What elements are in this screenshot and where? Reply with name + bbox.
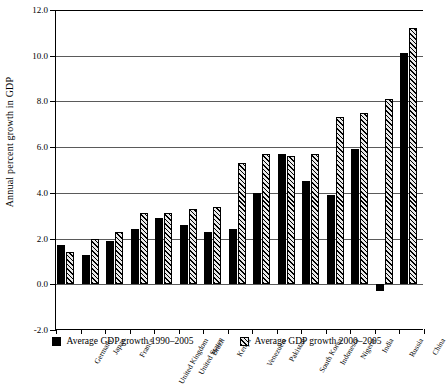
bar-series1 xyxy=(82,255,90,285)
x-axis-tick xyxy=(81,329,82,334)
bar-group xyxy=(56,10,81,329)
bar-series2 xyxy=(91,239,99,285)
y-axis-tick-label: 6.0 xyxy=(37,143,48,152)
x-axis-tick xyxy=(277,329,278,334)
x-axis-tick xyxy=(228,329,229,334)
y-axis-tick-label: 4.0 xyxy=(37,188,48,197)
y-axis-tick-label: 8.0 xyxy=(37,97,48,106)
legend-label-2000-2005: Average GDP growth 2000–2005 xyxy=(255,336,382,346)
bar-series1 xyxy=(106,241,114,284)
bar-group xyxy=(130,10,155,329)
x-axis-tick xyxy=(399,329,400,334)
bar-group xyxy=(301,10,326,329)
bar-group xyxy=(350,10,375,329)
bar-series2 xyxy=(287,156,295,284)
plot-area: 12.010.08.06.04.02.00.0-2.0 GermanyJapan… xyxy=(55,10,423,330)
chart-legend: Average GDP growth 1990–2005 Average GDP… xyxy=(0,336,433,346)
bar-series2 xyxy=(115,232,123,285)
bar-series2 xyxy=(360,113,368,284)
x-axis-tick xyxy=(301,329,302,334)
bar-group xyxy=(277,10,302,329)
x-axis-category-label: China xyxy=(431,337,447,357)
legend-item-2000-2005: Average GDP growth 2000–2005 xyxy=(240,336,382,346)
legend-item-1990-2005: Average GDP growth 1990–2005 xyxy=(52,336,194,346)
bar-series1 xyxy=(302,181,310,284)
y-axis-tick-label: -2.0 xyxy=(34,326,48,335)
bar-series2 xyxy=(336,117,344,284)
bar-series1 xyxy=(278,154,286,284)
bar-series2 xyxy=(238,163,246,284)
x-axis-tick xyxy=(130,329,131,334)
bar-group xyxy=(399,10,424,329)
bar-series2 xyxy=(140,213,148,284)
x-axis-tick xyxy=(154,329,155,334)
bar-group xyxy=(81,10,106,329)
x-axis-tick xyxy=(252,329,253,334)
bar-group xyxy=(154,10,179,329)
y-axis-tick-label: 0.0 xyxy=(37,280,48,289)
bar-series2 xyxy=(189,209,197,284)
bar-series1 xyxy=(204,232,212,285)
bar-group xyxy=(179,10,204,329)
bar-series1 xyxy=(253,193,261,284)
legend-swatch-solid-icon xyxy=(52,337,61,346)
bar-series-container xyxy=(56,10,423,329)
y-axis-tick-label: 10.0 xyxy=(32,51,48,60)
bar-group xyxy=(203,10,228,329)
x-axis-tick xyxy=(105,329,106,334)
legend-swatch-hatched-icon xyxy=(240,337,249,346)
bar-series1 xyxy=(376,284,384,291)
bar-series2 xyxy=(213,207,221,285)
x-axis-tick xyxy=(179,329,180,334)
bar-series1 xyxy=(400,53,408,284)
legend-label-1990-2005: Average GDP growth 1990–2005 xyxy=(67,336,194,346)
bar-series1 xyxy=(327,195,335,284)
y-axis-tick-label: 2.0 xyxy=(37,234,48,243)
bar-series1 xyxy=(57,245,65,284)
x-axis-tick xyxy=(375,329,376,334)
bar-series2 xyxy=(409,28,417,284)
bar-series1 xyxy=(180,225,188,284)
y-axis-title: Annual percent growth in GDP xyxy=(4,27,20,257)
bar-series2 xyxy=(164,213,172,284)
bar-group xyxy=(105,10,130,329)
x-axis-tick xyxy=(326,329,327,334)
bar-group xyxy=(375,10,400,329)
bar-series2 xyxy=(311,154,319,284)
bar-series1 xyxy=(229,229,237,284)
x-axis-tick xyxy=(350,329,351,334)
bar-series2 xyxy=(262,154,270,284)
bar-group xyxy=(252,10,277,329)
x-axis-tick xyxy=(56,329,57,334)
bar-series2 xyxy=(385,99,393,284)
bar-group xyxy=(326,10,351,329)
bar-series2 xyxy=(66,252,74,284)
bar-series1 xyxy=(131,229,139,284)
x-axis-tick xyxy=(424,329,425,334)
bar-series1 xyxy=(351,149,359,284)
plot-surface: 12.010.08.06.04.02.00.0-2.0 GermanyJapan… xyxy=(56,10,423,329)
bar-group xyxy=(228,10,253,329)
x-axis-tick xyxy=(203,329,204,334)
y-axis-tick-label: 12.0 xyxy=(32,6,48,15)
bar-series1 xyxy=(155,218,163,284)
